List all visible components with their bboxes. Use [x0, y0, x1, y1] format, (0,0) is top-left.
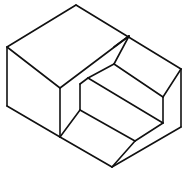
step-middle-long-b: [80, 110, 135, 141]
step-bottom-diagonal: [112, 141, 135, 167]
bottom-left-edge: [7, 106, 60, 137]
figure-stage: [0, 0, 189, 175]
stepped-block-drawing: [0, 0, 189, 175]
notch-diagonal-2: [114, 36, 129, 64]
step-right-upper: [163, 69, 181, 97]
top-left-edge: [7, 5, 76, 47]
step-middle-long-a: [88, 78, 163, 123]
step-inner-diagonal: [60, 110, 80, 137]
step-upper-corner: [80, 78, 88, 84]
step-right-lower: [135, 123, 163, 141]
step-upper-long: [114, 64, 163, 97]
top-front-edge: [7, 47, 60, 88]
bottom-front-edge: [60, 137, 112, 167]
step-upper-tread: [88, 64, 114, 78]
